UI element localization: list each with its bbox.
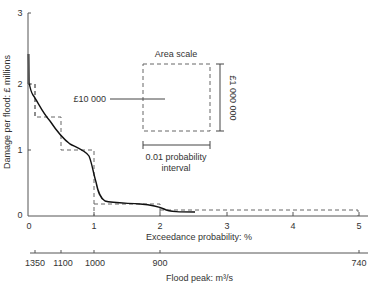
x-tick-label: 0	[26, 221, 31, 231]
area-scale-legend: Area scale £10 000 £1 000 000 0.01 proba…	[73, 49, 238, 173]
height-scale-label: £1 000 000	[228, 75, 238, 120]
x-tick-label: 3	[224, 221, 229, 231]
y-axis: 3 2 1 0 Damage per flood: £ millions	[2, 8, 31, 220]
width-scale-label-line1: 0.01 probability	[145, 152, 207, 162]
y-tick-label: 2	[17, 79, 22, 89]
flood-peak-tick-label: 900	[152, 258, 167, 268]
x-axis-label: Exceedance probability: %	[146, 232, 252, 242]
flood-peak-tick-label: 1000	[85, 258, 105, 268]
y-tick-label: 0	[17, 210, 22, 220]
width-scale-label-line2: interval	[161, 163, 190, 173]
x-tick-label: 4	[290, 221, 295, 231]
area-scale-title: Area scale	[155, 49, 198, 59]
y-tick-label: 3	[17, 8, 22, 18]
flood-peak-axis: 1350 1100 1000 900 740 Flood peak: m³/s	[25, 250, 368, 283]
damage-curve-series	[29, 54, 196, 212]
damage-probability-chart: 3 2 1 0 Damage per flood: £ millions 0 1…	[0, 0, 377, 287]
flood-peak-tick-label: 740	[351, 258, 366, 268]
flood-peak-tick-label: 1100	[53, 258, 72, 268]
x-tick-label: 2	[157, 221, 162, 231]
y-tick-label: 1	[17, 145, 22, 155]
x-tick-label: 1	[91, 221, 96, 231]
flood-peak-tick-label: 1350	[25, 258, 45, 268]
x-tick-label: 5	[356, 221, 361, 231]
x-axis: 0 1 2 3 4 5 Exceedance probability: %	[26, 212, 368, 242]
flood-peak-axis-label: Flood peak: m³/s	[166, 273, 234, 283]
area-value-label: £10 000	[73, 94, 106, 104]
y-axis-label: Damage per flood: £ millions	[2, 54, 12, 169]
